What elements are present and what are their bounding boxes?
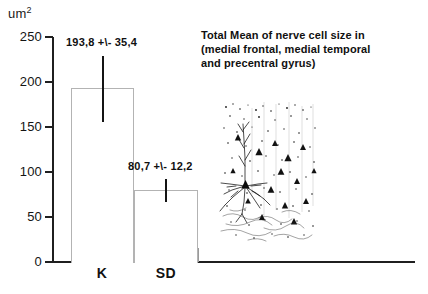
y-axis-unit-label: um2 (8, 6, 32, 21)
y-tick-label-50: 50 (2, 209, 42, 224)
error-bar-sd (165, 179, 167, 202)
y-tick-mark-250 (45, 36, 53, 38)
y-tick-label-200: 200 (2, 74, 42, 89)
golgi-stained-neuron-micrograph (218, 98, 321, 243)
annotation-line-1: Total Mean of nerve cell size in (201, 28, 416, 42)
y-tick-label-250: 250 (2, 29, 42, 44)
y-tick-mark-0 (45, 261, 53, 263)
value-label-k: 193,8 +\- 35,4 (66, 36, 137, 48)
error-bar-k (102, 56, 104, 122)
y-axis-line (52, 37, 54, 263)
y-tick-mark-200 (45, 81, 53, 83)
annotation-line-3: and precentral gyrus) (201, 56, 416, 70)
y-tick-mark-150 (45, 126, 53, 128)
x-tick-mark-right (198, 248, 199, 262)
y-axis-unit-exponent: 2 (26, 5, 31, 15)
y-tick-label-100: 100 (2, 164, 42, 179)
y-tick-label-150: 150 (2, 119, 42, 134)
bar-chart-figure: um2 250 200 150 100 50 0 193,8 +\- 35,4 … (0, 0, 428, 294)
y-tick-mark-100 (45, 171, 53, 173)
value-label-sd: 80,7 +\- 12,2 (128, 160, 193, 172)
chart-annotation: Total Mean of nerve cell size in (medial… (201, 28, 416, 70)
y-tick-mark-50 (45, 216, 53, 218)
x-tick-label-sd: SD (146, 265, 186, 281)
y-tick-label-0: 0 (2, 254, 42, 269)
annotation-line-2: (medial frontal, medial temporal (201, 42, 416, 56)
y-axis-unit-base: um (8, 6, 26, 21)
x-tick-label-k: K (82, 265, 122, 281)
